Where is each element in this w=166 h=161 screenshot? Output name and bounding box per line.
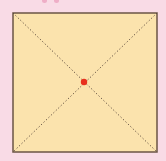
center-point: [81, 79, 87, 85]
square-diagram: [0, 0, 166, 161]
